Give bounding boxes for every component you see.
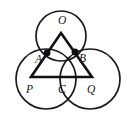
label-point-c: C	[58, 84, 66, 96]
circle-p	[16, 49, 76, 109]
label-point-b: B	[79, 53, 86, 65]
label-point-a: A	[35, 54, 42, 66]
vertex-dot-a	[44, 50, 50, 56]
label-point-p: P	[26, 84, 33, 96]
circle-q	[60, 49, 120, 109]
label-point-o: O	[58, 15, 66, 27]
label-point-q: Q	[87, 84, 95, 96]
vertex-dot-b	[72, 49, 78, 55]
geometry-figure: O A B P C Q	[0, 0, 131, 119]
